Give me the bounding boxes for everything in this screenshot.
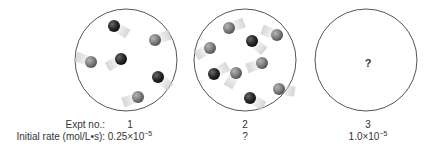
molecule-dark xyxy=(246,35,258,47)
molecule-gray xyxy=(273,83,285,95)
molecule-gray xyxy=(271,29,283,41)
molecule-dark xyxy=(115,53,127,65)
molecule-dark xyxy=(108,20,120,32)
molecule-gray xyxy=(149,34,161,46)
expt-2-number: 2 xyxy=(242,119,248,131)
initial-rate-label: Initial rate (mol/L•s): xyxy=(16,131,105,143)
molecule-dark xyxy=(152,71,164,83)
molecule-gray xyxy=(85,56,97,68)
expt-no-label: Expt no.: xyxy=(66,119,105,131)
expt-1-number: 1 xyxy=(127,119,133,131)
expt-2-rate: ? xyxy=(242,131,248,143)
expt-1-rate: 0.25×10−5 xyxy=(108,131,152,143)
molecule-dark xyxy=(208,68,220,80)
expt-3-rate: 1.0×10−5 xyxy=(349,131,388,143)
expt-3-number: 3 xyxy=(365,119,371,131)
molecule-gray xyxy=(204,42,216,54)
unknown-contents-mark: ? xyxy=(365,57,372,69)
molecule-gray xyxy=(132,91,144,103)
molecule-dark xyxy=(244,92,256,104)
molecule-gray xyxy=(230,67,242,79)
molecule-gray xyxy=(256,57,268,69)
molecule-gray xyxy=(223,22,235,34)
